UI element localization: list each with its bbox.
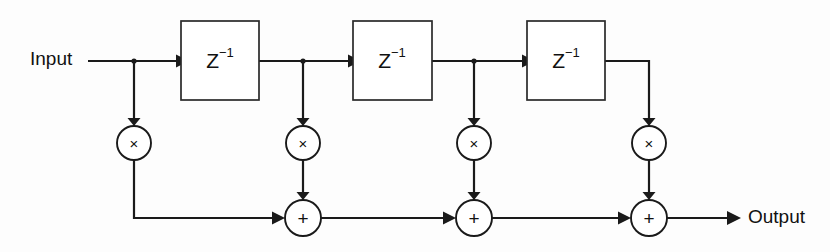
- adder-1-glyph: +: [297, 208, 308, 229]
- delay-block-1[interactable]: [181, 21, 259, 100]
- delay-block-3[interactable]: [527, 21, 605, 100]
- arrowhead-into-adder1-left: [272, 212, 285, 225]
- adder-chain-wires: [321, 211, 741, 225]
- output-label: Output: [748, 206, 806, 227]
- arrowhead-into-adder2-left: [443, 212, 456, 225]
- junction-dot-tap2: [471, 58, 476, 63]
- multiplier-1-glyph: ×: [130, 135, 139, 152]
- multiplier-output-wires: [134, 160, 656, 225]
- signal-flow-graph: Z−1 Z−1 Z−1 × × × × +: [0, 0, 830, 252]
- arrowhead-into-adder3-left: [618, 212, 631, 225]
- delay-block-2-label-base: Z: [378, 49, 391, 72]
- arrowhead-into-multiplier3: [468, 118, 481, 126]
- arrowhead-output: [727, 211, 741, 225]
- delay-block-1-label-base: Z: [206, 49, 219, 72]
- multiplier-4-glyph: ×: [645, 135, 654, 152]
- arrowhead-into-multiplier2: [297, 118, 310, 126]
- arrowhead-into-adder2-top: [468, 192, 481, 200]
- delay-block-group: Z−1 Z−1 Z−1: [181, 21, 605, 100]
- fir-filter-diagram: Z−1 Z−1 Z−1 × × × × +: [0, 0, 830, 252]
- junction-dot-tap0: [131, 58, 136, 63]
- delay-block-2-label-exponent: −1: [391, 45, 406, 60]
- multiplier-3-glyph: ×: [470, 135, 479, 152]
- arrowhead-into-multiplier1: [128, 118, 141, 126]
- delay-block-3-label-base: Z: [552, 49, 565, 72]
- delay-block-2[interactable]: [353, 21, 432, 100]
- junction-dot-tap1: [300, 58, 305, 63]
- delay-block-3-label-exponent: −1: [565, 45, 580, 60]
- input-label: Input: [30, 48, 73, 69]
- wire-multiplier1-to-adder1: [134, 160, 278, 218]
- multiplier-group: × × × ×: [117, 126, 666, 160]
- wire-delay3-to-multiplier4: [605, 61, 649, 118]
- multiplier-2-glyph: ×: [299, 135, 308, 152]
- arrowhead-into-adder3-top: [643, 192, 656, 200]
- adder-3-glyph: +: [643, 208, 654, 229]
- adder-2-glyph: +: [468, 208, 479, 229]
- arrowhead-into-adder1-top: [297, 192, 310, 200]
- delay-block-1-label-exponent: −1: [219, 45, 234, 60]
- arrowhead-into-multiplier4: [643, 118, 656, 126]
